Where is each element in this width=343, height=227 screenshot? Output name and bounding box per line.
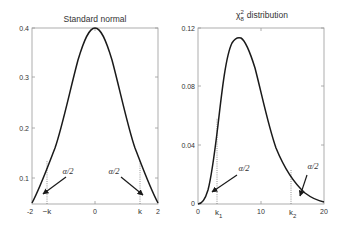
normal-ytick-label: 0.4 — [19, 25, 29, 32]
normal-xtick-label: -2 — [27, 208, 33, 215]
normal-alpha-left-arrow-icon — [43, 177, 66, 194]
chi-xtick-k2: k2 — [289, 208, 297, 219]
normal-xtick-label: 2 — [156, 208, 160, 215]
normal-pdf-curve — [32, 28, 158, 203]
chi-ytick-label: 0.04 — [181, 142, 195, 149]
normal-xtick-k: k — [138, 207, 143, 216]
normal-xtick-label: 0 — [93, 208, 97, 215]
chi-square-chart-title: χ28distribution — [236, 9, 288, 22]
title-subscript: 8 — [240, 16, 244, 22]
normal-ytick-label: 0.3 — [19, 74, 29, 81]
figure: Standard normal 0.4 0.3 0.2 0.1 -2 −k 0 … — [0, 0, 343, 227]
chi-ytick-label: 0.12 — [181, 25, 195, 32]
normal-xtick-minus-k: −k — [43, 207, 53, 216]
chi-xtick-label: 0 — [196, 208, 200, 215]
title-rest: distribution — [247, 10, 288, 20]
k1-sub: 1 — [219, 213, 223, 219]
normal-alpha-left-label: α/2 — [62, 166, 74, 176]
normal-axes-box — [32, 28, 158, 204]
normal-y-axis — [32, 28, 158, 178]
chi-xtick-k1: k1 — [215, 208, 223, 219]
normal-ytick-label: 0.1 — [19, 175, 29, 182]
chi-ytick-label: 0.08 — [181, 83, 195, 90]
normal-ytick-label: 0.2 — [19, 125, 29, 132]
k2-sub: 2 — [293, 213, 297, 219]
normal-chart-title: Standard normal — [64, 14, 127, 24]
chi-alpha-left-label: α/2 — [238, 163, 250, 173]
chi-ytick-label: 0 — [191, 200, 195, 207]
chi-alpha-left-arrow-icon — [212, 175, 237, 192]
title-superscript: 2 — [241, 9, 245, 15]
chi-xtick-label: 20 — [320, 208, 328, 215]
chi-xtick-label: 10 — [257, 208, 265, 215]
chi-square-chart: χ28distribution 0.12 0.08 0.04 0 0 10 20… — [181, 9, 328, 219]
chi-square-y-axis — [198, 28, 324, 145]
normal-alpha-right-label: α/2 — [108, 166, 120, 176]
normal-chart: Standard normal 0.4 0.3 0.2 0.1 -2 −k 0 … — [19, 14, 160, 216]
chi-alpha-right-label: α/2 — [307, 161, 319, 171]
